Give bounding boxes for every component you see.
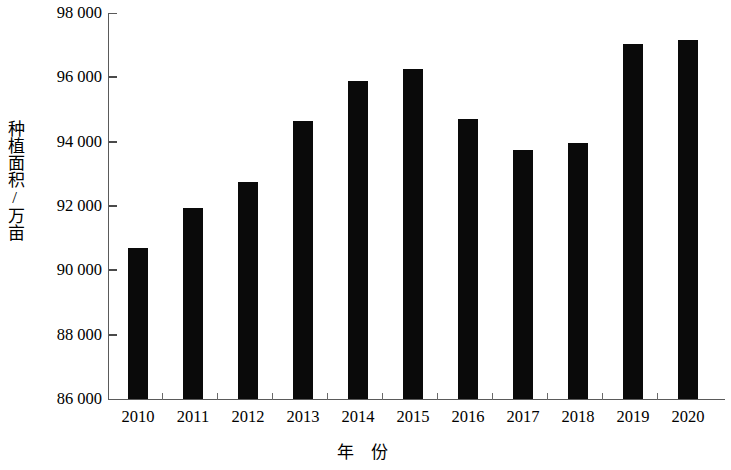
bar: [458, 119, 478, 399]
bar: [128, 248, 148, 399]
x-axis-tick: [382, 393, 383, 400]
x-axis-title: 年 份: [0, 443, 731, 463]
x-axis-title-text: 年 份: [337, 443, 393, 462]
x-axis-tick-label: 2019: [603, 408, 663, 426]
y-axis-top-cap: [108, 13, 117, 14]
y-axis-tick-label: 92 000: [32, 198, 102, 215]
plot-area: [108, 13, 725, 399]
y-axis-title: 种植面积/万亩: [2, 120, 24, 241]
x-axis-tick: [327, 393, 328, 400]
x-axis-tick-label: 2014: [328, 408, 388, 426]
x-axis-tick-label: 2010: [108, 408, 168, 426]
x-axis-tick-label: 2016: [438, 408, 498, 426]
x-axis-tick-label: 2020: [658, 408, 718, 426]
y-axis-tick: [109, 269, 117, 271]
x-axis-tick: [272, 393, 273, 400]
y-axis-tick-label: 96 000: [32, 69, 102, 86]
bar: [238, 182, 258, 399]
y-axis-tick-label: 94 000: [32, 134, 102, 151]
y-axis-tick-label: 90 000: [32, 262, 102, 279]
x-axis-tick-label: 2013: [273, 408, 333, 426]
x-axis-tick: [217, 393, 218, 400]
x-axis-tick: [657, 393, 658, 400]
x-axis-tick-label: 2015: [383, 408, 443, 426]
bar: [623, 44, 643, 399]
y-axis-tick: [109, 334, 117, 336]
bar: [678, 40, 698, 399]
bar: [568, 143, 588, 399]
y-axis-tick: [109, 141, 117, 143]
x-axis-tick: [437, 393, 438, 400]
x-axis-tick: [162, 393, 163, 400]
y-axis-tick: [109, 76, 117, 78]
x-axis-tick-label: 2017: [493, 408, 553, 426]
y-axis-tick-label: 98 000: [32, 5, 102, 22]
y-axis-tick-label: 88 000: [32, 327, 102, 344]
x-axis-tick: [547, 393, 548, 400]
bar: [348, 81, 368, 399]
y-axis-tick: [109, 205, 117, 207]
bar: [293, 121, 313, 399]
x-axis-tick: [492, 393, 493, 400]
x-axis-line: [108, 399, 725, 400]
bar: [513, 150, 533, 399]
x-axis-tick-label: 2018: [548, 408, 608, 426]
x-axis-tick: [602, 393, 603, 400]
y-axis-tick-label: 86 000: [32, 391, 102, 408]
y-axis-tick-labels: 86 00088 00090 00092 00094 00096 00098 0…: [30, 0, 102, 470]
bar: [403, 69, 423, 399]
bar-chart-figure: 种植面积/万亩 86 00088 00090 00092 00094 00096…: [0, 0, 731, 470]
x-axis-tick-label: 2012: [218, 408, 278, 426]
x-axis-tick-label: 2011: [163, 408, 223, 426]
bar: [183, 208, 203, 399]
